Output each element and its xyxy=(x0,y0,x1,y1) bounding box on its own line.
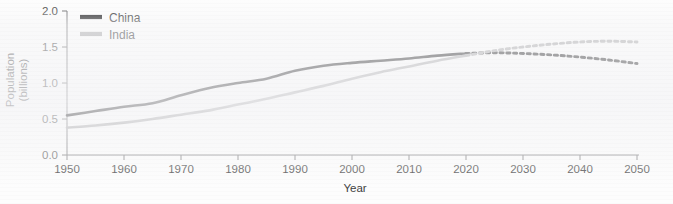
x-axis-tick-labels: 1950196019701980199020002010202020302040… xyxy=(54,163,650,175)
series-china-historical-line xyxy=(67,53,466,115)
x-tick-label: 2040 xyxy=(567,163,593,175)
series-china-projection-line xyxy=(466,53,637,64)
x-tick-label: 2000 xyxy=(339,163,365,175)
x-tick-label: 2020 xyxy=(453,163,479,175)
legend-label-india: India xyxy=(109,28,135,42)
x-tick-label: 1970 xyxy=(168,163,194,175)
series-india-projection-line xyxy=(466,41,637,55)
y-axis-title: Population (billions) xyxy=(4,53,29,107)
series-group xyxy=(67,41,637,127)
y-tick-label: 1.0 xyxy=(42,77,58,89)
y-tick-label: 2.0 xyxy=(42,5,58,17)
x-tick-label: 1950 xyxy=(54,163,80,175)
legend-item-india: India xyxy=(80,28,135,42)
x-tick-label: 2050 xyxy=(624,163,650,175)
legend-label-china: China xyxy=(109,11,141,25)
y-axis-title-line1: Population xyxy=(4,53,16,107)
legend-item-china: China xyxy=(80,11,141,25)
chart-canvas: 0.00.51.01.52.0 195019601970198019902000… xyxy=(0,0,673,204)
x-tick-label: 1990 xyxy=(282,163,308,175)
x-axis-ticks xyxy=(67,155,637,160)
y-axis-ticks xyxy=(62,11,67,155)
x-tick-label: 2030 xyxy=(510,163,536,175)
population-line-chart: 0.00.51.01.52.0 195019601970198019902000… xyxy=(0,0,673,204)
x-tick-label: 1980 xyxy=(225,163,251,175)
x-tick-label: 2010 xyxy=(396,163,422,175)
x-tick-label: 1960 xyxy=(111,163,137,175)
x-axis-title: Year xyxy=(343,182,366,194)
y-tick-label: 0.5 xyxy=(42,113,58,125)
y-axis-title-line2: (billions) xyxy=(17,58,29,101)
y-tick-label: 1.5 xyxy=(42,41,58,53)
series-china xyxy=(67,53,637,116)
y-axis-tick-labels: 0.00.51.01.52.0 xyxy=(42,5,58,161)
chart-legend: ChinaIndia xyxy=(80,11,141,42)
y-tick-label: 0.0 xyxy=(42,149,58,161)
series-india-historical-line xyxy=(67,56,466,128)
